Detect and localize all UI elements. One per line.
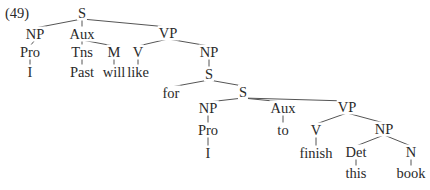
leaf-finish: finish bbox=[298, 146, 333, 161]
node-v-main: V bbox=[132, 45, 144, 60]
leaf-i-inner: I bbox=[205, 146, 212, 161]
node-s-inner: S bbox=[238, 85, 248, 100]
node-det: Det bbox=[345, 145, 368, 160]
node-aux-inner: Aux bbox=[270, 101, 297, 116]
node-s-embedded: S bbox=[204, 67, 214, 82]
node-np-object: NP bbox=[199, 45, 220, 60]
leaf-to: to bbox=[276, 123, 289, 138]
node-np-inner: NP bbox=[198, 101, 219, 116]
node-vp-inner: VP bbox=[337, 100, 358, 115]
node-pro-subject: Pro bbox=[19, 45, 41, 60]
syntax-tree-diagram: (49) S NP Pro I Aux Tns Past M will VP V… bbox=[0, 0, 430, 190]
node-n: N bbox=[405, 145, 417, 160]
node-tns: Tns bbox=[70, 45, 94, 60]
node-vp-main: VP bbox=[158, 26, 179, 41]
node-pro-inner: Pro bbox=[197, 123, 219, 138]
leaf-i-subject: I bbox=[27, 65, 34, 80]
tree-edges bbox=[0, 0, 430, 190]
node-s-root: S bbox=[77, 6, 87, 21]
node-v-inner: V bbox=[310, 123, 322, 138]
leaf-this: this bbox=[345, 166, 368, 181]
node-aux-main: Aux bbox=[69, 27, 96, 42]
leaf-like: like bbox=[126, 65, 150, 80]
node-np-inner-object: NP bbox=[374, 122, 395, 137]
leaf-for: for bbox=[162, 86, 181, 101]
example-number: (49) bbox=[5, 6, 29, 21]
leaf-past: Past bbox=[69, 65, 95, 80]
node-np-subject: NP bbox=[25, 27, 46, 42]
leaf-will: will bbox=[102, 65, 127, 80]
leaf-book: book bbox=[396, 166, 427, 181]
node-m: M bbox=[107, 45, 122, 60]
